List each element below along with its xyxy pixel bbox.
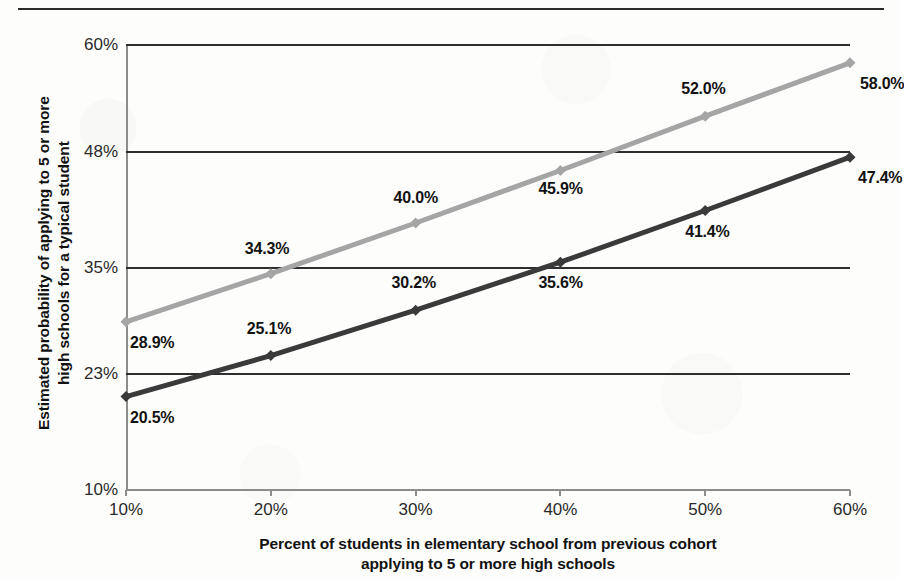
data-label: 47.4% [858, 169, 902, 187]
series-layer [126, 45, 850, 490]
x-tick-mark [559, 490, 561, 496]
y-axis-title-line2: high schools for a typical student [55, 141, 72, 385]
data-point-marker [265, 350, 276, 361]
y-axis-title-line1: Estimated probability of applying to 5 o… [35, 96, 52, 430]
y-tick-label: 10% [84, 480, 118, 500]
x-tick-mark [849, 490, 851, 496]
data-point-marker [121, 391, 132, 402]
x-tick-label: 10% [109, 500, 143, 520]
data-label: 30.2% [392, 274, 436, 292]
data-label: 28.9% [130, 334, 174, 352]
y-axis-title: Estimated probability of applying to 5 o… [34, 3, 74, 523]
data-label: 20.5% [130, 409, 174, 427]
x-axis-title: Percent of students in elementary school… [126, 534, 850, 574]
y-tick-label: 48% [84, 142, 118, 162]
data-label: 34.3% [245, 240, 289, 258]
x-tick-label: 20% [254, 500, 288, 520]
header-rule [18, 8, 884, 10]
x-tick-label: 60% [833, 500, 867, 520]
x-axis-title-line2: applying to 5 or more high schools [361, 555, 615, 572]
x-tick-label: 40% [543, 500, 577, 520]
series-line-lower-series [126, 157, 850, 397]
y-tick-label: 23% [84, 364, 118, 384]
y-tick-label: 35% [84, 258, 118, 278]
data-label: 25.1% [247, 320, 291, 338]
series-line-upper-series [126, 63, 850, 322]
x-tick-mark [125, 490, 127, 496]
data-label: 58.0% [860, 75, 904, 93]
data-label: 41.4% [685, 223, 729, 241]
x-axis-title-line1: Percent of students in elementary school… [259, 535, 716, 552]
data-label: 45.9% [538, 180, 582, 198]
x-tick-mark [415, 490, 417, 496]
y-tick-label: 60% [84, 35, 118, 55]
x-tick-label: 50% [688, 500, 722, 520]
x-tick-label: 30% [399, 500, 433, 520]
plot-area: 10%23%35%48%60% 10%20%30%40%50%60% 28.9%… [126, 45, 850, 490]
x-tick-mark [270, 490, 272, 496]
x-tick-mark [704, 490, 706, 496]
data-label: 52.0% [681, 80, 725, 98]
data-label: 35.6% [538, 274, 582, 292]
data-label: 40.0% [394, 189, 438, 207]
